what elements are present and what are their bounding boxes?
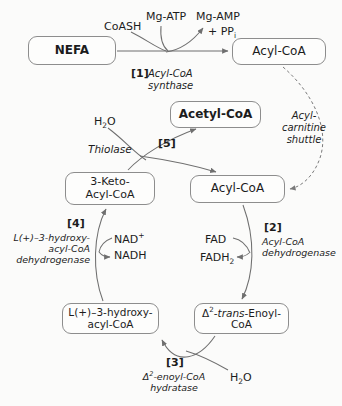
step-number-3: [3] — [166, 357, 184, 370]
label-h2o-hydratase: H2O — [230, 372, 252, 387]
node-l-3-hydroxy-acyl-coa-label: L(+)–3-hydroxy-acyl-CoA — [65, 307, 155, 331]
line-fad — [233, 238, 250, 253]
step-number-5: [5] — [158, 138, 176, 151]
label-nadh: NADH — [114, 250, 147, 263]
label-fadh2: FADH2 — [200, 252, 234, 267]
node-3-keto-acyl-coa-label: 3-Keto-Acyl-CoA — [83, 176, 138, 201]
step-number-1: [1] — [131, 68, 149, 81]
node-acetyl-coa[interactable]: Acetyl-CoA — [170, 101, 261, 128]
arrow-hydroxy-to-ketoacyl — [95, 209, 106, 301]
label-h2o-thiolase: H2O — [94, 116, 116, 131]
arrow-enoyl-to-hydroxy — [162, 336, 215, 357]
annotation-acyl-carnitine-shuttle: Acyl-carnitineshuttle — [276, 110, 332, 145]
enzyme-name-1: Acyl-CoAsynthase — [148, 68, 218, 92]
arrow-h2o-into-hydratase — [186, 351, 228, 370]
node-delta2-trans-enoyl-coa[interactable]: Δ2-trans-Enoyl-CoA — [194, 303, 289, 334]
label-coash: CoASH — [104, 21, 141, 34]
arrow-to-nadh — [99, 252, 110, 257]
label-nad-plus: NAD+ — [114, 232, 145, 247]
node-acyl-coa-top[interactable]: Acyl-CoA — [232, 38, 326, 65]
node-acyl-coa-cycle[interactable]: Acyl-CoA — [190, 175, 285, 203]
label-mg-atp: Mg-ATP — [146, 11, 186, 24]
label-ppi: + PPi — [208, 26, 236, 41]
node-nefa[interactable]: NEFA — [28, 36, 116, 65]
node-l-3-hydroxy-acyl-coa[interactable]: L(+)–3-hydroxy-acyl-CoA — [62, 303, 159, 334]
enzyme-name-5: Thiolase — [88, 143, 132, 155]
step-number-4: [4] — [67, 218, 85, 231]
node-acyl-coa-top-label: Acyl-CoA — [249, 45, 308, 58]
node-3-keto-acyl-coa[interactable]: 3-Keto-Acyl-CoA — [65, 172, 155, 205]
arrow-thiolase-to-acylcoa — [140, 156, 216, 172]
label-fad: FAD — [205, 234, 226, 247]
enzyme-name-3: Δ2-enoyl-CoAhydratase — [126, 371, 222, 394]
node-delta2-trans-enoyl-coa-label: Δ2-trans-Enoyl-CoA — [199, 306, 284, 331]
line-nad — [99, 238, 112, 252]
arrow-to-mgamp — [166, 28, 203, 52]
node-acyl-coa-cycle-label: Acyl-CoA — [208, 182, 267, 195]
enzyme-name-2: Acyl-CoAdehydrogenase — [262, 236, 342, 258]
arrow-acylcoa-to-enoyl — [242, 205, 252, 299]
node-acetyl-coa-label: Acetyl-CoA — [176, 108, 256, 121]
step-number-2: [2] — [264, 222, 282, 235]
arrow-mgatp-in — [161, 26, 168, 51]
beta-oxidation-diagram: NEFA Acyl-CoA Acetyl-CoA 3-Keto-Acyl-CoA… — [0, 0, 342, 406]
label-mg-amp: Mg-AMP — [196, 11, 240, 24]
arrow-to-fadh2 — [237, 253, 249, 257]
enzyme-name-4: L(+)–3-hydroxy-acyl-CoAdehydrogenase — [4, 232, 90, 266]
node-nefa-label: NEFA — [52, 44, 92, 57]
